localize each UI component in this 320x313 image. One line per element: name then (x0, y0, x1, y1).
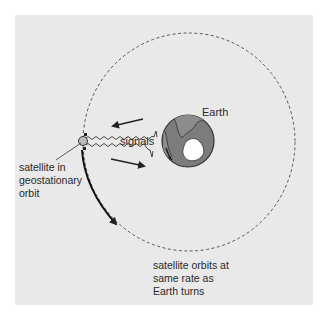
uplink-arrow (111, 159, 144, 166)
signals-label: signals (120, 135, 154, 148)
orbit-rate-note: satellite orbits at same rate as Earth t… (153, 259, 229, 298)
downlink-arrow (113, 119, 143, 126)
earth-label: Earth (202, 106, 228, 119)
satellite-label: satellite in geostationary orbit (19, 161, 82, 200)
satellite-leader-line (56, 143, 81, 160)
orbit-direction-arrow (82, 150, 116, 224)
